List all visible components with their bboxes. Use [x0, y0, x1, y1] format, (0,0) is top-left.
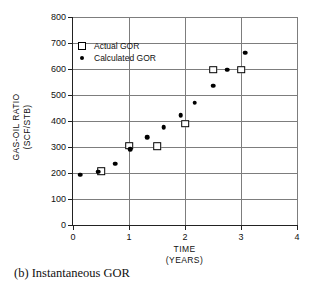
data-point-actual-gor: [181, 120, 189, 128]
y-axis-tick: [68, 147, 73, 148]
y-axis-tick-label: 200: [51, 169, 66, 178]
x-axis-title-line1: TIME: [72, 244, 297, 255]
data-point-calculated-gor: [113, 162, 118, 167]
legend-label: Actual GOR: [94, 40, 139, 52]
x-axis-tick-label: 2: [182, 233, 187, 242]
y-axis-tick: [68, 199, 73, 200]
y-axis-tick: [68, 69, 73, 70]
legend: Actual GOR Calculated GOR: [74, 40, 156, 64]
data-point-calculated-gor: [211, 84, 216, 89]
x-axis-tick-label: 1: [126, 233, 131, 242]
y-axis-tick-label: 500: [51, 91, 66, 100]
data-point-calculated-gor: [96, 169, 101, 174]
x-axis-tick: [241, 225, 242, 230]
y-axis-tick-label: 0: [61, 221, 66, 230]
y-axis-tick-label: 600: [51, 65, 66, 74]
y-axis-tick: [68, 17, 73, 18]
data-point-calculated-gor: [192, 101, 197, 106]
y-axis-tick-label: 300: [51, 143, 66, 152]
x-axis-tick-label: 4: [294, 233, 299, 242]
y-axis-title-line2: (SCF/STB): [22, 104, 32, 149]
y-axis-title-line1: GAS-OIL RATIO: [11, 93, 21, 160]
data-point-calculated-gor: [178, 113, 183, 118]
gridline-vertical: [241, 17, 242, 225]
x-axis-tick: [129, 225, 130, 230]
data-point-actual-gor: [237, 66, 245, 74]
x-axis-tick-label: 0: [70, 233, 75, 242]
x-axis-tick: [73, 225, 74, 230]
open-square-icon: [74, 42, 90, 49]
filled-circle-icon: [74, 56, 90, 61]
x-axis-tick: [185, 225, 186, 230]
figure-instantaneous-gor: 010020030040050060070080001234 Actual GO…: [0, 0, 317, 291]
y-axis-tick: [68, 43, 73, 44]
data-point-actual-gor: [209, 66, 217, 74]
data-point-calculated-gor: [161, 125, 166, 130]
x-axis-tick-label: 3: [238, 233, 243, 242]
data-point-calculated-gor: [243, 50, 248, 55]
legend-item-calculated-gor: Calculated GOR: [74, 52, 156, 64]
legend-label: Calculated GOR: [94, 52, 156, 64]
x-axis-title: TIME (YEARS): [72, 244, 297, 266]
legend-item-actual-gor: Actual GOR: [74, 40, 156, 52]
x-axis-title-line2: (YEARS): [72, 255, 297, 266]
y-axis-tick: [68, 121, 73, 122]
y-axis-tick-label: 400: [51, 117, 66, 126]
data-point-actual-gor: [153, 142, 161, 150]
figure-caption: (b) Instantaneous GOR: [14, 266, 130, 281]
data-point-calculated-gor: [145, 135, 150, 140]
x-axis-tick: [297, 225, 298, 230]
y-axis-tick: [68, 173, 73, 174]
gridline-vertical: [297, 17, 298, 225]
data-point-calculated-gor: [225, 67, 230, 72]
y-axis-tick-label: 700: [51, 39, 66, 48]
y-axis-tick: [68, 95, 73, 96]
y-axis-tick-label: 100: [51, 195, 66, 204]
y-axis-tick-label: 800: [51, 13, 66, 22]
data-point-calculated-gor: [128, 147, 133, 152]
data-point-calculated-gor: [78, 172, 83, 177]
